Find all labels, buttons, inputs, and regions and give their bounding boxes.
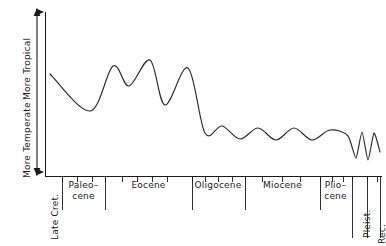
paleoclimate-chart: More Tropical More Temperate xyxy=(0,0,386,246)
epoch-label-paleocene-line2: cene xyxy=(63,191,104,202)
climate-curve-line xyxy=(50,60,380,160)
epoch-label-paleocene-line1: Paleo– xyxy=(63,180,104,191)
epoch-label-eocene: Eocene xyxy=(106,180,191,190)
y-axis-direction-arrow xyxy=(34,8,41,176)
epoch-label-pleistocene: Pleist. xyxy=(362,210,372,238)
epoch-label-pliocene: Plio– cene xyxy=(320,180,351,202)
epoch-label-pliocene-line2: cene xyxy=(320,191,351,202)
epoch-label-miocene: Miocene xyxy=(246,180,319,190)
epoch-label-late-cret: Late Cret. xyxy=(50,194,60,240)
epoch-label-oligocene: Oligocene xyxy=(192,180,244,190)
epoch-label-paleocene: Paleo– cene xyxy=(63,180,104,202)
epoch-label-recent: Rec. xyxy=(377,224,386,244)
epoch-label-pliocene-line1: Plio– xyxy=(320,180,351,191)
